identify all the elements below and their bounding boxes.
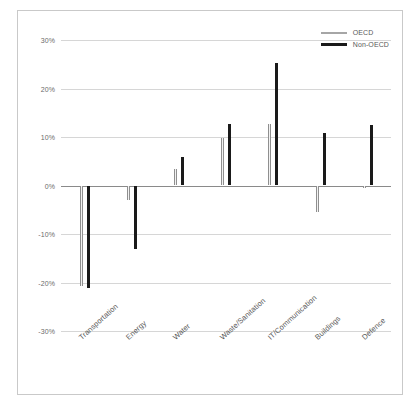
bar-oecd[interactable] (363, 186, 366, 189)
y-axis-tick-label: 0% (45, 182, 55, 189)
bar-group (108, 40, 155, 331)
plot-area: 30%20%10%0%-10%-20%-30% (61, 40, 391, 331)
bar-non-oecd[interactable] (370, 125, 373, 185)
bar-oecd[interactable] (80, 186, 83, 286)
bar-non-oecd[interactable] (228, 124, 231, 185)
legend-item-oecd[interactable]: OECD (321, 29, 389, 36)
y-axis-tick-label: 20% (41, 85, 55, 92)
bar-oecd[interactable] (127, 186, 130, 201)
bar-oecd[interactable] (268, 124, 271, 186)
bar-non-oecd[interactable] (275, 63, 278, 186)
y-axis-tick-label: 10% (41, 134, 55, 141)
chart-frame: OECD Non-OECD 30%20%10%0%-10%-20%-30% Tr… (17, 10, 403, 395)
y-axis-tick-label: -30% (38, 328, 55, 335)
bar-group (344, 40, 391, 331)
x-axis-labels: TransportationEnergyWaterWaste/Sanitatio… (61, 333, 391, 403)
bar-group (297, 40, 344, 331)
bar-non-oecd[interactable] (323, 133, 326, 185)
bar-oecd[interactable] (316, 186, 319, 213)
bar-non-oecd[interactable] (87, 186, 90, 288)
y-axis-tick-label: 30% (41, 37, 55, 44)
bar-group (202, 40, 249, 331)
bar-group (61, 40, 108, 331)
y-axis-tick-label: -20% (38, 279, 55, 286)
bar-oecd[interactable] (174, 169, 177, 186)
bar-oecd[interactable] (221, 138, 224, 186)
bar-non-oecd[interactable] (134, 186, 137, 249)
bar-non-oecd[interactable] (181, 157, 184, 185)
legend-swatch-oecd-icon (321, 32, 347, 34)
bar-group (155, 40, 202, 331)
legend-label-oecd: OECD (353, 29, 374, 36)
y-axis-tick-label: -10% (38, 231, 55, 238)
bar-group (250, 40, 297, 331)
